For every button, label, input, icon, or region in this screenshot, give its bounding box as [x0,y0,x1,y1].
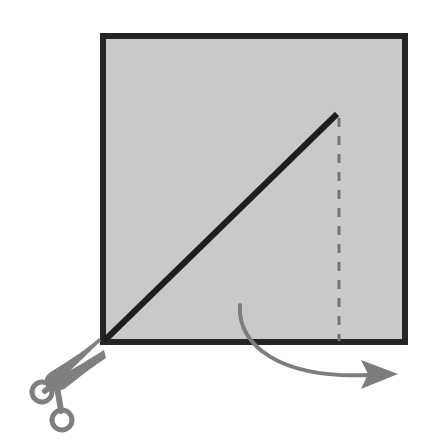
paper-fold-diagram [0,0,423,446]
scissors-ring-upper [32,382,52,402]
scissors-icon [32,338,106,430]
scissors-shank-lower [57,388,61,411]
diagram-canvas [0,0,423,446]
